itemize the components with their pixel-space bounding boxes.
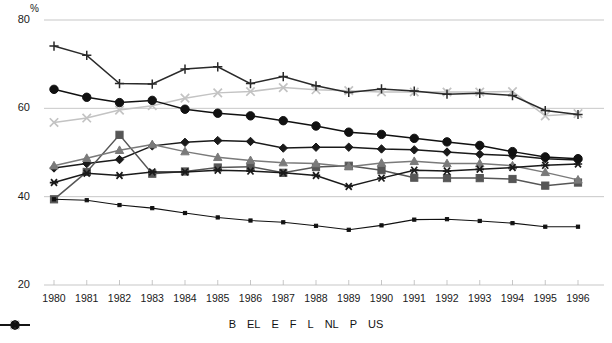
legend-label: B [229, 318, 236, 330]
data-point-marker-dot [478, 219, 481, 222]
data-point-marker-dot [52, 198, 55, 201]
data-point-marker-dot [13, 323, 16, 326]
legend-label: F [290, 318, 297, 330]
data-point-marker-dot [314, 224, 317, 227]
data-point-marker-plus [246, 79, 255, 88]
series-line [54, 88, 578, 123]
data-point-marker-circle [115, 98, 123, 106]
data-point-marker-triangle [410, 157, 418, 165]
data-point-marker-circle [345, 128, 353, 136]
data-point-marker-square [476, 175, 483, 182]
legend-label: NL [325, 318, 339, 330]
data-point-marker-circle [279, 117, 287, 125]
data-point-marker-plus [279, 72, 288, 81]
data-point-marker-circle [476, 141, 484, 149]
legend-item-L[interactable]: L [308, 318, 314, 330]
data-point-marker-circle [50, 85, 58, 93]
data-point-marker-star [410, 167, 418, 174]
data-point-marker-dot [151, 207, 154, 210]
data-point-marker-square [116, 131, 123, 138]
data-point-marker-star [312, 172, 320, 179]
legend-item-EL[interactable]: EL [247, 318, 260, 330]
data-point-marker-dot [544, 225, 547, 228]
data-point-marker-dot [249, 219, 252, 222]
data-point-marker-diamond [476, 150, 484, 158]
data-point-marker-plus [213, 62, 222, 71]
data-point-marker-plus [442, 90, 451, 99]
data-point-marker-square [378, 167, 385, 174]
data-point-marker-circle [83, 93, 91, 101]
legend-item-E[interactable]: E [271, 318, 278, 330]
data-point-marker-circle [246, 112, 254, 120]
data-point-marker-circle [377, 130, 385, 138]
data-point-marker-circle [574, 154, 582, 162]
data-point-marker-dot [216, 216, 219, 219]
data-point-marker-star [443, 168, 451, 175]
data-point-marker-dot [347, 228, 350, 231]
data-point-marker-diamond [377, 145, 385, 153]
legend-item-NL[interactable]: NL [325, 318, 339, 330]
data-point-marker-circle [181, 105, 189, 113]
data-point-marker-diamond [443, 148, 451, 156]
data-point-marker-star [345, 183, 353, 190]
data-point-marker-diamond [246, 137, 254, 145]
data-point-marker-dot [576, 225, 579, 228]
data-point-marker-star [115, 172, 123, 179]
data-point-marker-diamond [410, 146, 418, 154]
data-point-marker-diamond [345, 143, 353, 151]
line-chart-plot [0, 0, 612, 343]
data-point-marker-star [377, 175, 385, 182]
data-point-marker-dot [413, 218, 416, 221]
legend-label: US [368, 318, 383, 330]
legend-label: P [350, 318, 357, 330]
data-point-marker-dot [445, 218, 448, 221]
data-point-marker-square [411, 174, 418, 181]
data-point-marker-dot [183, 211, 186, 214]
data-point-marker-circle [508, 147, 516, 155]
chart-legend: BELEFLNLPUS [0, 318, 612, 330]
chart-root: % 80604020 19801981198219831984198519861… [0, 0, 612, 343]
data-point-marker-square [509, 175, 516, 182]
data-point-marker-dot [118, 203, 121, 206]
data-point-marker-circle [312, 122, 320, 130]
data-point-marker-dot [85, 199, 88, 202]
data-point-marker-circle [410, 134, 418, 142]
data-point-marker-circle [214, 109, 222, 117]
series-line [54, 46, 578, 114]
data-point-marker-diamond [181, 138, 189, 146]
legend-item-B[interactable]: B [229, 318, 236, 330]
legend-item-US[interactable]: US [368, 318, 383, 330]
data-point-marker-plus [180, 64, 189, 73]
legend-marker-dot [0, 318, 30, 332]
data-point-marker-square [542, 182, 549, 189]
data-point-marker-dot [380, 224, 383, 227]
data-point-marker-diamond [115, 155, 123, 163]
data-point-marker-plus [49, 41, 58, 50]
legend-label: L [308, 318, 314, 330]
data-point-marker-square [443, 175, 450, 182]
data-point-marker-diamond [214, 136, 222, 144]
data-point-marker-dot [282, 221, 285, 224]
data-point-marker-diamond [312, 143, 320, 151]
data-point-marker-dot [511, 222, 514, 225]
legend-item-P[interactable]: P [350, 318, 357, 330]
series-US [52, 198, 579, 232]
data-point-marker-circle [541, 153, 549, 161]
data-point-marker-star [50, 179, 58, 186]
data-point-marker-plus [475, 89, 484, 98]
legend-label: E [271, 318, 278, 330]
data-point-marker-circle [148, 96, 156, 104]
data-point-marker-plus [344, 88, 353, 97]
legend-label: EL [247, 318, 260, 330]
data-point-marker-plus [148, 79, 157, 88]
legend-item-F[interactable]: F [290, 318, 297, 330]
series-P [49, 41, 582, 119]
data-point-marker-circle [443, 138, 451, 146]
data-point-marker-diamond [279, 144, 287, 152]
